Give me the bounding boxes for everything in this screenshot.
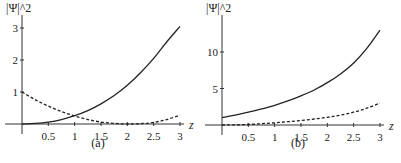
x-axis-label: z bbox=[188, 118, 194, 132]
panel-caption: (b) bbox=[291, 136, 305, 150]
y-axis-label: |Ψ|^2 bbox=[206, 1, 231, 15]
chart-panel-b: 0.511.522.53510|Ψ|^2z(b) bbox=[205, 1, 394, 150]
figure: 0.511.522.53123|Ψ|^2z(a)0.511.522.53510|… bbox=[0, 0, 401, 163]
x-tick-label: 2.5 bbox=[347, 131, 361, 143]
chart-panel-a: 0.511.522.53123|Ψ|^2z(a) bbox=[5, 1, 194, 150]
x-tick-label: 2 bbox=[325, 131, 331, 143]
y-tick-label: 5 bbox=[213, 83, 219, 95]
x-axis-label: z bbox=[388, 119, 394, 133]
x-tick-label: 1 bbox=[72, 130, 78, 142]
x-tick-label: 3 bbox=[177, 130, 183, 142]
y-tick-label: 1 bbox=[13, 86, 19, 98]
x-tick-label: 1 bbox=[272, 131, 278, 143]
x-tick-label: 3 bbox=[377, 131, 383, 143]
x-tick-label: 0.5 bbox=[241, 131, 255, 143]
series-dashed bbox=[222, 103, 380, 125]
series-solid bbox=[222, 30, 380, 118]
series-dashed bbox=[22, 92, 180, 124]
x-tick-label: 0.5 bbox=[41, 130, 55, 142]
panel-caption: (a) bbox=[91, 136, 104, 150]
y-tick-label: 3 bbox=[13, 22, 19, 34]
x-tick-label: 2 bbox=[125, 130, 131, 142]
series-solid bbox=[22, 26, 180, 124]
y-axis-label: |Ψ|^2 bbox=[6, 1, 31, 15]
y-tick-label: 10 bbox=[207, 46, 219, 58]
x-tick-label: 2.5 bbox=[147, 130, 161, 142]
chart-canvas: 0.511.522.53123|Ψ|^2z(a)0.511.522.53510|… bbox=[0, 0, 401, 163]
y-tick-label: 2 bbox=[13, 54, 19, 66]
